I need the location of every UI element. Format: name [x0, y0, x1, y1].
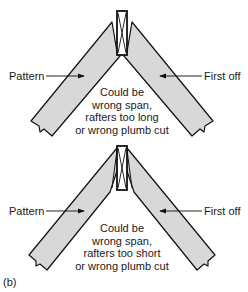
figure-label: (b)	[3, 276, 16, 288]
note-line: or wrong plumb cut	[67, 124, 177, 137]
note-line: Could be	[67, 222, 177, 235]
rafter-note: Could be wrong span, rafters too long or…	[67, 86, 177, 136]
pattern-label: Pattern	[9, 70, 44, 82]
note-line: Could be	[67, 86, 177, 99]
first-off-label: First off	[204, 70, 240, 82]
rafter-note: Could be wrong span, rafters too short o…	[67, 222, 177, 272]
note-line: rafters too long	[67, 111, 177, 124]
first-off-label: First off	[204, 205, 240, 217]
note-line: wrong span,	[67, 235, 177, 248]
note-line: wrong span,	[67, 99, 177, 112]
pattern-label: Pattern	[9, 205, 44, 217]
note-line: or wrong plumb cut	[67, 260, 177, 273]
note-line: rafters too short	[67, 247, 177, 260]
